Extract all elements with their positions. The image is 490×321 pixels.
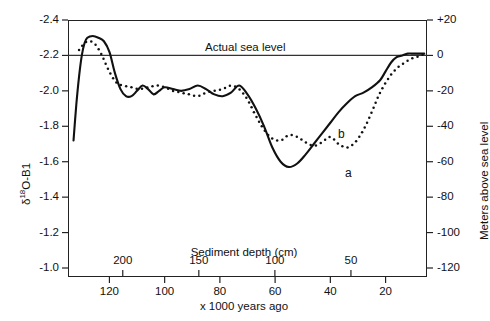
right-axis-title: Meters above sea level	[478, 122, 490, 240]
sediment-depth-title: Sediment depth (cm)	[0, 246, 488, 258]
axis-tick-label: -20	[437, 85, 454, 97]
axis-tick-label: 150	[179, 255, 219, 267]
axis-tick-label: -60	[437, 156, 454, 168]
axis-tick-label: -40	[437, 120, 454, 132]
axis-tick-label: -2.2	[25, 49, 59, 61]
axis-tick-label: 200	[103, 255, 143, 267]
axis-tick-label: -1.0	[25, 262, 59, 274]
axis-tick-label: -2.0	[25, 85, 59, 97]
axis-tick-label: -80	[437, 191, 454, 203]
axis-tick-label: -2.4	[25, 14, 59, 26]
years-ago-title: x 1000 years ago	[0, 300, 488, 312]
axis-tick-label: 100	[255, 255, 295, 267]
axis-tick-label: 120	[89, 286, 129, 298]
axis-tick-label: 40	[310, 286, 350, 298]
plot-frame	[68, 20, 427, 277]
axis-tick-label: -120	[437, 262, 460, 274]
axis-tick-label: 0	[437, 49, 443, 61]
axis-tick-label: -1.8	[25, 120, 59, 132]
curve-a-label: a	[345, 166, 352, 180]
axis-tick-label: 50	[331, 255, 371, 267]
sea-level-annotation: Actual sea level	[205, 41, 286, 53]
axis-tick-label: 60	[255, 286, 295, 298]
curve-b-label: b	[338, 127, 345, 141]
axis-tick-label: 100	[145, 286, 185, 298]
axis-tick-label: -1.4	[25, 191, 59, 203]
axis-tick-label: -1.2	[25, 227, 59, 239]
axis-tick-label: +20	[437, 14, 457, 26]
axis-tick-label: 80	[200, 286, 240, 298]
axis-tick-label: -100	[437, 227, 460, 239]
axis-tick-label: -1.6	[25, 156, 59, 168]
axis-tick-label: 20	[366, 286, 406, 298]
